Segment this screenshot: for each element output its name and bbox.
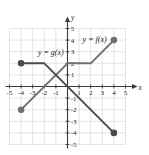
graph-figure: -5-4-3-2-11234554321-1-2-3-4-5xyy = f(x)… — [0, 0, 149, 155]
endpoint-dot-f — [111, 37, 116, 42]
x-axis-arrowhead — [132, 84, 138, 89]
x-tick-label: 3 — [101, 89, 105, 97]
x-tick-label: -5 — [7, 89, 13, 97]
y-tick-label: 4 — [71, 37, 75, 45]
x-tick-label: -2 — [41, 89, 47, 97]
y-tick-label: 5 — [71, 25, 75, 33]
y-tick-label: -3 — [71, 118, 77, 126]
axis-names: xy — [70, 13, 143, 92]
endpoint-dot-g — [111, 130, 116, 135]
curve-label-f: y = f(x) — [82, 35, 107, 44]
y-tick-label: -2 — [71, 106, 77, 114]
y-tick-label: -5 — [71, 141, 77, 149]
curve-label-g: y = g(x) — [37, 48, 64, 57]
x-tick-label: 5 — [124, 89, 128, 97]
x-tick-label: -4 — [18, 89, 24, 97]
y-tick-label: 1 — [71, 71, 75, 79]
y-tick-label: -4 — [71, 129, 77, 137]
coordinate-plane: -5-4-3-2-11234554321-1-2-3-4-5xyy = f(x)… — [0, 0, 149, 155]
y-axis-arrowhead — [65, 17, 70, 23]
endpoint-dot-g — [18, 61, 23, 66]
x-tick-label: -1 — [53, 89, 59, 97]
y-axis-label: y — [70, 13, 75, 22]
endpoint-dot-f — [18, 107, 23, 112]
x-axis-label: x — [138, 83, 143, 92]
x-tick-label: 4 — [112, 89, 116, 97]
x-tick-label: 2 — [89, 89, 93, 97]
y-tick-label: 3 — [71, 48, 75, 56]
